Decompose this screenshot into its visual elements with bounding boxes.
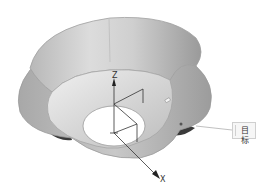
- z-axis-label: Z: [112, 72, 117, 80]
- callout-leader: [196, 126, 232, 130]
- 3d-viewport[interactable]: Z X 目标: [0, 0, 272, 192]
- callout-label: 目标: [241, 126, 255, 146]
- target-callout[interactable]: 目标: [232, 122, 256, 139]
- x-axis-label: X: [160, 176, 165, 184]
- funnel-model[interactable]: [0, 0, 272, 192]
- callout-divider: [235, 125, 236, 136]
- target-point[interactable]: [180, 123, 183, 126]
